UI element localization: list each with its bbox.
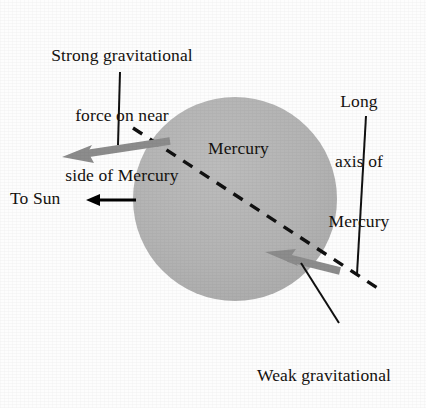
long-axis-label-line2: axis of bbox=[304, 152, 414, 172]
to-sun-label: To Sun bbox=[10, 189, 60, 209]
mercury-body-label: Mercury bbox=[208, 139, 269, 159]
long-axis-label-line1: Long bbox=[304, 92, 414, 112]
long-axis-label-line3: Mercury bbox=[304, 212, 414, 232]
strong-force-label-line1: Strong gravitational bbox=[16, 46, 228, 66]
strong-force-label-line2: force on near bbox=[16, 106, 228, 126]
weak-force-label: Weak gravitational force on far side of … bbox=[222, 326, 426, 408]
strong-force-label-line3: side of Mercury bbox=[16, 166, 228, 186]
weak-force-label-line1: Weak gravitational bbox=[222, 366, 426, 386]
figure-canvas: Strong gravitational force on near side … bbox=[0, 0, 426, 408]
long-axis-label: Long axis of Mercury bbox=[304, 52, 414, 271]
